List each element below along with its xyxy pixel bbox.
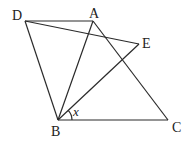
point-label-D: D [12,8,22,23]
angle-label-x: x [72,104,79,119]
point-label-E: E [142,36,151,51]
segment-DB [25,21,58,120]
segment-BE [58,44,139,120]
angle-arc-x [68,110,72,120]
geometry-figure: D A E B C x [0,0,193,142]
point-label-A: A [89,6,100,21]
segment-DE [25,21,139,44]
point-label-B: B [51,124,60,139]
segment-AC [93,21,168,120]
point-label-C: C [172,120,181,135]
